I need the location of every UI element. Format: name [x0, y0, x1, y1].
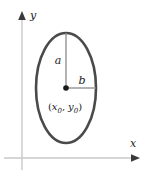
center-dot [63, 85, 69, 91]
center-coordinate-label: (x0,y0) [48, 101, 82, 115]
semi-axis-a-label: a [55, 54, 62, 67]
x-axis-label: x [130, 137, 137, 150]
y-axis-arrowhead-icon [18, 11, 26, 20]
y-axis-label: y [29, 9, 37, 22]
x-axis-arrowhead-icon [131, 154, 140, 162]
ellipse-figure: x y a b (x0,y0) [0, 0, 154, 176]
center-label-close-paren: ) [78, 101, 82, 112]
center-label-separator: , [62, 101, 65, 112]
semi-axis-b-label: b [78, 74, 85, 87]
ellipse-diagram-canvas: x y a b (x0,y0) [0, 0, 154, 176]
